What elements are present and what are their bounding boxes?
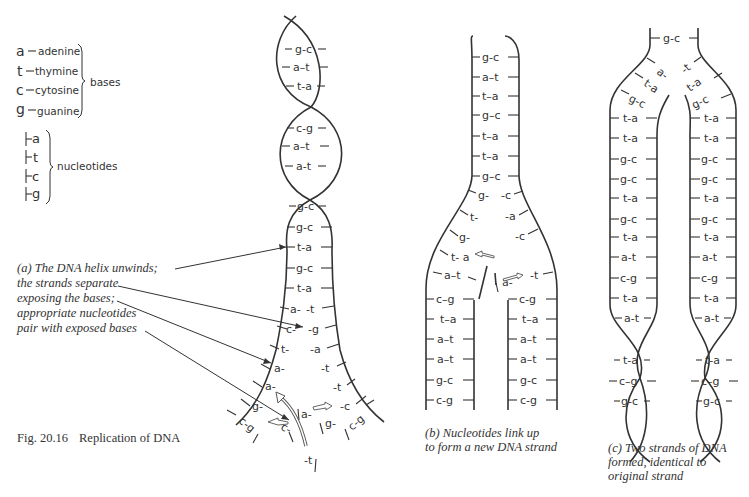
base-pair: c-g xyxy=(620,272,637,285)
base-pair: t–a xyxy=(482,130,499,143)
caption-line: exposing the bases; xyxy=(17,291,115,305)
base-pair: g-c xyxy=(620,213,637,226)
base-pair: g-c xyxy=(663,32,680,45)
base-pair: t-a xyxy=(623,132,638,145)
base-pair: t-a xyxy=(623,292,638,305)
base-pair: c–g xyxy=(436,293,455,306)
legend-nucleotides: a t c g nucleotides xyxy=(26,130,118,204)
base-pair: t-a xyxy=(704,132,719,145)
base-pair: c-g xyxy=(701,272,718,285)
nucleotide-symbol-c: c xyxy=(32,169,39,184)
base-pair: g-c xyxy=(297,200,314,213)
dna-replication-diagram: a adenine t thymine c cytosine g guanine… xyxy=(0,0,749,497)
caption-line: pair with exposed bases xyxy=(16,321,137,335)
base-pair: t-a xyxy=(704,192,719,205)
base-pair: t-a xyxy=(623,354,638,367)
base-pair: t-a xyxy=(297,282,312,295)
right-daughter-pairs: t-a t-a g-c g-c t-a g-c t-a a-t c-g t-a … xyxy=(690,112,736,325)
caption-line: (c) Two strands of DNA xyxy=(608,441,727,455)
base-pair: a–t xyxy=(293,61,310,74)
exposed-base-right: -c xyxy=(515,230,525,243)
left-arm-pairs: t- a a–t c–g t–a a–t a–t g-c c-g xyxy=(426,250,476,407)
base-pair: g-c xyxy=(296,221,313,234)
panel-b: g-c a–t t–a g–c t–a t–a g–c g- t- g- -c … xyxy=(425,36,558,454)
fork-pair-right: -t xyxy=(679,61,694,77)
legend-symbol-g: g xyxy=(16,101,25,117)
bases-label: bases xyxy=(90,76,121,88)
base-pair: t–a xyxy=(440,313,457,326)
base-pair: g-c xyxy=(520,374,537,387)
base-pair: t-a xyxy=(297,241,312,254)
lower-helix-pairs: t-a c–g g-c t-a c–g g-c xyxy=(609,354,738,408)
base-pair: a-t xyxy=(296,160,312,173)
exposed-base-left: g- xyxy=(252,400,263,413)
free-nucleotide: g- xyxy=(325,417,336,430)
helix-base-pairs: g-c a–t t-a c-g a–t a-t g-c xyxy=(282,43,329,213)
base-pair: c-g xyxy=(519,293,536,306)
caption-line: (b) Nucleotides link up xyxy=(425,426,539,440)
base-pair: a–t xyxy=(437,353,454,366)
panel-c: g-c a- t-a g-c -t t-a g-c t-a t-a g-c g-… xyxy=(608,28,738,483)
legend: a adenine t thymine c cytosine g guanine… xyxy=(16,43,121,204)
exposed-base-left: a- xyxy=(265,380,276,393)
base-pair: t-a xyxy=(705,354,720,367)
hollow-arrows xyxy=(268,392,332,446)
top-pair: g-c xyxy=(650,32,698,45)
base-pair: g-c xyxy=(436,374,453,387)
base-pair: c–g xyxy=(701,375,720,388)
exposed-base-left: a- xyxy=(274,362,285,375)
free-nucleotides: c- a- g- -t xyxy=(279,408,336,472)
caption-line: to form a new DNA strand xyxy=(425,440,558,454)
base-pair: t-a xyxy=(623,231,638,244)
exposed-base-left: g- xyxy=(478,189,489,202)
base-pair: g-c xyxy=(701,153,718,166)
exposed-base-right: -c xyxy=(340,400,350,413)
fork-pair-left: g-c xyxy=(627,92,648,111)
exposed-base-right: -c xyxy=(501,189,511,202)
caption-line: original strand xyxy=(608,469,684,483)
panel-b-caption: (b) Nucleotides link up to form a new DN… xyxy=(425,426,558,454)
hollow-arrow-right-icon xyxy=(313,402,332,410)
base-pair: a-t xyxy=(621,251,637,264)
nucleotides-label: nucleotides xyxy=(57,160,118,172)
base-pair: t-a xyxy=(623,192,638,205)
base-pair: g-c xyxy=(620,153,637,166)
nucleotide-symbol-t: t xyxy=(33,150,38,165)
base-pair: a-t xyxy=(704,312,720,325)
panel-c-caption: (c) Two strands of DNA formed, identical… xyxy=(608,441,727,483)
legend-name-thymine: thymine xyxy=(35,65,78,77)
ladder-base-pairs: g-c t-a g-c t-a xyxy=(286,221,333,295)
base-pair: g–c xyxy=(482,170,501,183)
base-pair: a–t xyxy=(520,353,537,366)
hollow-arrow-left-icon xyxy=(475,251,494,258)
base-pair: g-c xyxy=(701,213,718,226)
base-pair: -t xyxy=(530,269,539,282)
free-nucleotide: a- xyxy=(301,408,312,421)
base-pair: a–t xyxy=(520,333,537,346)
legend-symbol-t: t xyxy=(17,63,23,79)
base-pair: g-c xyxy=(703,395,720,408)
base-pair: a-t xyxy=(624,312,640,325)
base-pair: t-a xyxy=(297,80,312,93)
base-pair: c-g xyxy=(436,394,453,407)
left-daughter-pairs: t-a t-a g-c g-c t-a g-c t-a a-t c-g t-a … xyxy=(610,112,657,325)
exposed-base-left: a- xyxy=(290,303,301,316)
base-pair: g-c xyxy=(701,173,718,186)
exposed-base-left: t- xyxy=(281,343,289,356)
panel-a-caption: (a) The DNA helix unwinds; the strands s… xyxy=(16,261,158,335)
base-pair: c-g xyxy=(296,122,313,135)
exposed-base-right: -a xyxy=(310,343,321,356)
legend-symbol-a: a xyxy=(16,43,25,59)
exposed-base-right: -a xyxy=(505,210,516,223)
fork-pair-right: g-c xyxy=(690,93,711,112)
base-pair: g-c xyxy=(295,43,312,56)
base-pair: c–g xyxy=(619,375,638,388)
exposed-base-left: t- xyxy=(470,211,478,224)
base-pair: g–c xyxy=(482,109,501,122)
figure-title: Replication of DNA xyxy=(79,431,180,445)
nucleotide-symbol-g: g xyxy=(32,186,40,201)
base-pair: g-c xyxy=(620,173,637,186)
exposed-base-left: g- xyxy=(459,231,470,244)
base-pair: a–t xyxy=(444,269,461,282)
free-nucleotide: -t xyxy=(304,454,313,467)
